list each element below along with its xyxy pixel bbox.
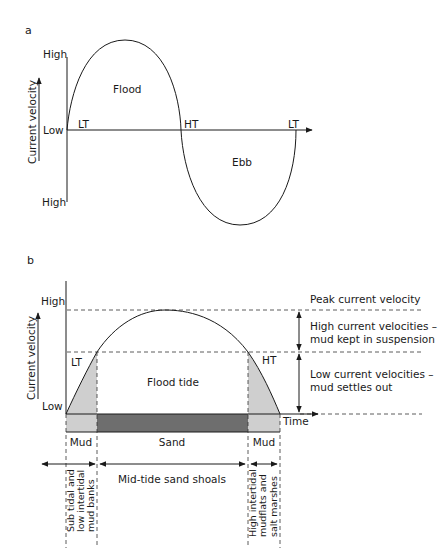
panel-a-flood-label: Flood xyxy=(113,83,141,95)
panel-b-y-axis-title: Current velocity xyxy=(25,316,37,400)
panel-a-label: a xyxy=(25,24,32,37)
panel-b-sand-bar xyxy=(97,414,248,432)
panel-b-high-annotation-1: High current velocities – xyxy=(310,320,437,332)
panel-a-velocity-curve xyxy=(67,40,296,225)
panel-b-y-high: High xyxy=(41,295,65,307)
tidal-velocity-diagram: a Current velocity High Low High LT HT L… xyxy=(0,0,447,556)
panel-b-x-title: Time xyxy=(282,415,309,427)
panel-b-mud-right-label: Mud xyxy=(253,436,275,448)
panel-b-label: b xyxy=(27,254,34,267)
panel-a-ebb-label: Ebb xyxy=(232,156,252,168)
panel-a-y-axis-title: Current velocity xyxy=(26,80,38,164)
panel-b-flood-tide-label: Flood tide xyxy=(147,376,199,388)
panel-b-right-zone-line3: salt marshes xyxy=(268,476,279,537)
panel-a: a Current velocity High Low High LT HT L… xyxy=(25,24,312,225)
panel-a-y-high-top: High xyxy=(43,48,67,60)
panel-b: b Current velocity High Low Time LT HT xyxy=(25,254,437,548)
panel-b-mud-bar-left xyxy=(66,414,97,432)
panel-b-y-low: Low xyxy=(42,400,63,412)
panel-b-low-annotation-2: mud settles out xyxy=(310,381,392,393)
panel-b-right-zone-line2: mudflats and xyxy=(257,474,268,537)
panel-a-ht: HT xyxy=(184,118,199,130)
panel-b-middle-zone-label: Mid-tide sand shoals xyxy=(118,473,226,485)
panel-b-mud-bar-right xyxy=(248,414,280,432)
panel-b-high-annotation-2: mud kept in suspension xyxy=(310,333,435,345)
panel-b-left-zone-line3: mud banks xyxy=(85,479,96,532)
panel-b-mud-left-label: Mud xyxy=(70,436,92,448)
panel-a-lt-end: LT xyxy=(288,118,299,130)
panel-b-ht-label: HT xyxy=(262,354,277,366)
panel-b-low-annotation-1: Low current velocities – xyxy=(310,368,434,380)
panel-b-lt-label: LT xyxy=(71,356,82,368)
panel-a-y-high-bottom: High xyxy=(42,196,66,208)
panel-a-lt-start: LT xyxy=(78,118,89,130)
panel-a-y-low: Low xyxy=(43,124,64,136)
panel-b-peak-annotation: Peak current velocity xyxy=(310,293,421,305)
panel-b-sand-label: Sand xyxy=(159,436,185,448)
